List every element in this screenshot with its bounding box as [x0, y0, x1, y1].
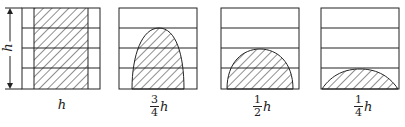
fraction-variable: h	[263, 99, 271, 114]
fraction-denominator: 4	[355, 107, 362, 119]
panel-2	[119, 8, 197, 89]
fraction-denominator: 2	[254, 107, 261, 119]
panel-1	[5, 8, 100, 89]
panel-1-label: h	[52, 97, 72, 112]
side-height-label: h	[0, 42, 15, 54]
panel-3	[221, 8, 299, 89]
fraction-variable: h	[364, 99, 372, 114]
panel-2-label: 34 h	[150, 94, 168, 119]
hatched-fill-tall-arch	[132, 28, 184, 89]
fraction-variable: h	[160, 99, 168, 114]
panel-4-label: 14 h	[354, 94, 372, 119]
panel-4	[321, 8, 399, 89]
hatched-fill-semicircle	[227, 49, 293, 89]
panel-3-label: 12 h	[253, 94, 271, 119]
fraction-denominator: 4	[151, 107, 158, 119]
hatched-fill-low-arch	[322, 69, 398, 89]
